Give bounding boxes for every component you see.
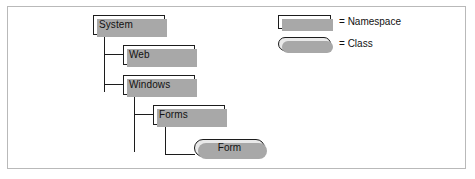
node-forms-label: Forms [159,110,188,120]
node-form-class[interactable]: Form [194,139,265,157]
node-forms[interactable]: Forms [153,105,225,125]
figure-frame: System Web Windows Forms Form = Namespac… [7,6,466,169]
class-swatch-icon [278,37,331,51]
legend-class-separator: = [339,38,345,49]
node-web-label: Web [129,50,150,60]
node-system-label: System [99,20,133,30]
node-system[interactable]: System [93,15,165,35]
diagram-figure: System Web Windows Forms Form = Namespac… [0,0,475,179]
node-windows-label: Windows [129,80,170,90]
legend-row-class: = Class [278,37,373,51]
legend-class-text: = Class [339,39,373,49]
legend-namespace-label: Namespace [348,16,401,27]
node-windows[interactable]: Windows [123,75,195,95]
legend-row-namespace: = Namespace [278,15,401,29]
legend-class-label: Class [348,38,373,49]
node-web[interactable]: Web [123,45,195,65]
legend-namespace-text: = Namespace [339,17,401,27]
node-form-label: Form [218,143,241,153]
legend-namespace-separator: = [339,16,345,27]
namespace-swatch-icon [278,15,331,29]
